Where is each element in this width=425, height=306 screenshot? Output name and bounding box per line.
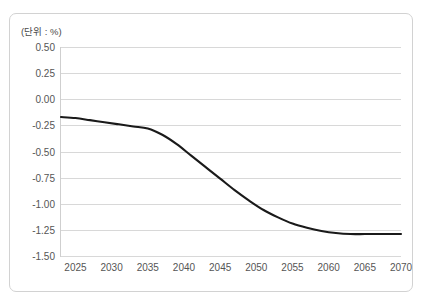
y-tick-label: -0.75	[32, 172, 55, 183]
x-tick-label: 2065	[354, 262, 376, 273]
y-axis-tick-labels: 0.500.250.00-0.25-0.50-0.75-1.00-1.25-1.…	[10, 47, 55, 256]
x-tick-label: 2025	[64, 262, 86, 273]
y-tick-label: -1.25	[32, 224, 55, 235]
y-tick-label: 0.25	[36, 68, 55, 79]
line-series	[61, 47, 401, 256]
x-tick-label: 2050	[245, 262, 267, 273]
y-tick-label: -1.00	[32, 198, 55, 209]
y-tick-label: -0.50	[32, 146, 55, 157]
series-path	[61, 117, 401, 234]
y-tick-label: 0.50	[36, 42, 55, 53]
x-tick-label: 2035	[137, 262, 159, 273]
x-tick-label: 2030	[101, 262, 123, 273]
plot-area	[61, 47, 401, 256]
x-tick-label: 2040	[173, 262, 195, 273]
chart-container: (단위 : %) 0.500.250.00-0.25-0.50-0.75-1.0…	[9, 13, 413, 292]
y-tick-label: 0.00	[36, 94, 55, 105]
y-tick-label: -0.25	[32, 120, 55, 131]
x-tick-label: 2055	[281, 262, 303, 273]
x-tick-label: 2060	[318, 262, 340, 273]
x-axis-tick-labels: 2025203020352040204520502055206020652070	[61, 262, 401, 278]
x-tick-label: 2045	[209, 262, 231, 273]
unit-label: (단위 : %)	[21, 24, 62, 38]
y-tick-label: -1.50	[32, 251, 55, 262]
gridline	[61, 256, 401, 257]
x-tick-label: 2070	[390, 262, 412, 273]
